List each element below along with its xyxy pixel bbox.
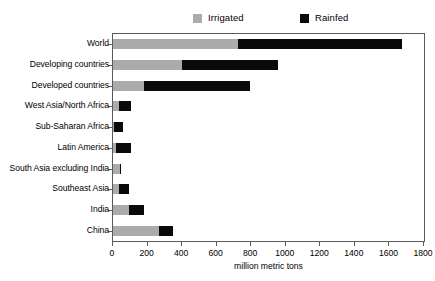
y-axis-label: South Asia excluding India — [0, 163, 109, 173]
x-axis-tick — [319, 242, 320, 246]
y-axis-label: India — [0, 204, 109, 214]
bar-chart: Irrigated Rainfed WorldDeveloping countr… — [0, 0, 435, 281]
bar-segment-irrigated — [113, 226, 159, 236]
bar-series-group — [113, 34, 424, 241]
x-axis-tick — [354, 242, 355, 246]
bar-row — [113, 101, 131, 111]
legend-swatch-rainfed — [300, 14, 309, 23]
x-axis-tick — [216, 242, 217, 246]
bar-row — [113, 226, 173, 236]
y-axis-label: West Asia/North Africa — [0, 100, 109, 110]
bar-segment-rainfed — [238, 39, 402, 49]
bar-segment-irrigated — [113, 60, 182, 70]
x-axis-tick-label: 600 — [208, 248, 222, 258]
legend-label-irrigated: Irrigated — [208, 13, 244, 23]
x-axis-ticks — [112, 242, 425, 247]
bar-row — [113, 184, 129, 194]
x-axis-title: million metric tons — [112, 261, 425, 271]
bar-segment-rainfed — [129, 205, 144, 215]
bar-segment-rainfed — [114, 122, 123, 132]
x-axis-tick-label: 0 — [110, 248, 115, 258]
y-axis-label: Developing countries — [0, 59, 109, 69]
bar-segment-irrigated — [113, 205, 129, 215]
x-axis-tick-label: 400 — [174, 248, 188, 258]
bar-segment-rainfed — [144, 81, 250, 91]
bar-row — [113, 122, 123, 132]
bar-segment-rainfed — [119, 101, 131, 111]
x-axis-tick-label: 1200 — [310, 248, 329, 258]
bar-segment-irrigated — [113, 81, 144, 91]
bar-row — [113, 81, 250, 91]
x-axis-tick-labels: 020040060080010001200140016001800 — [0, 248, 435, 260]
x-axis-tick — [112, 242, 113, 246]
x-axis-tick — [250, 242, 251, 246]
x-axis-tick — [423, 242, 424, 246]
bar-segment-rainfed — [182, 60, 278, 70]
x-axis-tick-label: 1600 — [379, 248, 398, 258]
bar-row — [113, 39, 402, 49]
bar-row — [113, 143, 131, 153]
bar-row — [113, 205, 144, 215]
bar-segment-rainfed — [116, 143, 131, 153]
bar-row — [113, 60, 278, 70]
y-axis-labels: WorldDeveloping countriesDeveloped count… — [0, 33, 109, 242]
y-axis-label: China — [0, 225, 109, 235]
chart-legend: Irrigated Rainfed — [0, 10, 435, 26]
bar-segment-irrigated — [113, 164, 120, 174]
y-axis-label: Latin America — [0, 142, 109, 152]
x-axis-tick — [388, 242, 389, 246]
x-axis-tick — [181, 242, 182, 246]
legend-item-rainfed: Rainfed — [300, 10, 348, 26]
x-axis-tick-label: 1800 — [413, 248, 432, 258]
x-axis-tick-label: 200 — [139, 248, 153, 258]
bar-segment-rainfed — [119, 184, 129, 194]
x-axis-tick-label: 800 — [243, 248, 257, 258]
legend-label-rainfed: Rainfed — [315, 13, 348, 23]
x-axis-tick — [285, 242, 286, 246]
bar-segment-rainfed — [120, 164, 121, 174]
y-axis-label: Southeast Asia — [0, 183, 109, 193]
bar-segment-irrigated — [113, 39, 238, 49]
y-axis-label: Sub-Saharan Africa — [0, 121, 109, 131]
x-axis-tick — [147, 242, 148, 246]
x-axis-tick-label: 1000 — [275, 248, 294, 258]
bar-row — [113, 164, 121, 174]
bar-segment-rainfed — [159, 226, 174, 236]
legend-swatch-irrigated — [193, 14, 202, 23]
legend-item-irrigated: Irrigated — [193, 10, 244, 26]
y-axis-label: Developed countries — [0, 80, 109, 90]
y-axis-label: World — [0, 38, 109, 48]
x-axis-tick-label: 1400 — [344, 248, 363, 258]
